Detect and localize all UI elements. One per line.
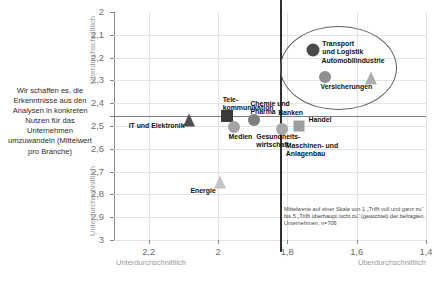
y-tick-mark (110, 149, 114, 150)
y-tick-mark (110, 217, 114, 218)
y-tick-mark (110, 126, 114, 127)
x-tick-label: 1,8 (267, 246, 307, 257)
x-tick-mark (426, 240, 427, 244)
y-tick-label: 2,4 (78, 97, 104, 108)
y-tick-mark (110, 80, 114, 81)
data-point-label: IT und Elektronik (127, 122, 185, 130)
x-tick-mark (149, 240, 150, 244)
x-tick-label: 1,4 (406, 246, 434, 257)
data-point-label: Handel (308, 116, 378, 124)
x-axis-right-label: Überdurchschnittlich (358, 258, 426, 267)
data-point-marker[interactable] (294, 121, 305, 132)
data-point-label: Versicherungen (321, 83, 367, 91)
data-point-marker[interactable] (307, 43, 320, 56)
y-tick-mark (110, 194, 114, 195)
x-tick-label: 1,6 (337, 246, 377, 257)
chart-root: Wir schaffen es, die Erkenntnisse aus de… (0, 0, 434, 281)
y-tick-label: 2,5 (78, 120, 104, 131)
y-tick-mark (110, 103, 114, 104)
footnote: Mittelwerte auf einer Skala von 1 „Triff… (284, 206, 430, 228)
x-tick-mark (218, 240, 219, 244)
y-tick-label: 2,6 (78, 143, 104, 154)
data-point-label: Maschinen- und Anlagenbau (286, 142, 360, 158)
gridline-vertical (218, 12, 219, 240)
y-tick-mark (110, 12, 114, 13)
gridline-horizontal (114, 240, 426, 241)
data-point-label: Automobilindustrie (321, 57, 395, 65)
y-tick-mark (110, 172, 114, 173)
y-axis-top-label: Überdurchschnittlich (88, 16, 97, 84)
y-tick-mark (110, 35, 114, 36)
x-tick-label: 2 (198, 246, 238, 257)
y-tick-mark (110, 58, 114, 59)
data-point-marker[interactable] (276, 123, 288, 135)
x-axis-left-label: Unterdurchschnittlich (116, 258, 186, 267)
x-tick-mark (287, 240, 288, 244)
y-tick-mark (110, 240, 114, 241)
x-tick-label: 2,2 (129, 246, 169, 257)
gridline-horizontal (114, 194, 426, 195)
data-point-marker[interactable] (319, 71, 331, 83)
y-axis-bottom-label: Unterdurchschnittlich (88, 166, 97, 236)
gridline-horizontal (114, 35, 426, 36)
data-point-label: Transport und Logistik (322, 40, 392, 56)
gridline-horizontal (114, 172, 426, 173)
highlight-ellipse (280, 26, 396, 110)
x-tick-mark (357, 240, 358, 244)
data-point-label: Energie (170, 187, 216, 195)
data-point-marker[interactable] (228, 121, 240, 133)
